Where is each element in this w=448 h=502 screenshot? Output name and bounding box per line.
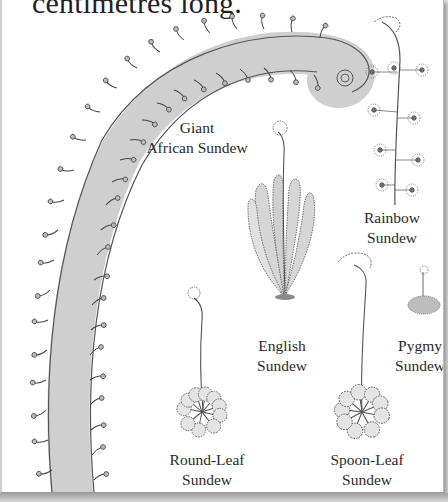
english-sundew-drawing [248,121,315,300]
book-page: centimetres long. [0,0,444,493]
spoon-leaf-sundew-drawing [333,253,392,441]
label-english-sundew: English Sundew [247,336,317,376]
label-rainbow-sundew: Rainbow Sundew [347,208,437,248]
label-round-leaf-sundew: Round-Leaf Sundew [157,450,257,490]
rainbow-sundew-drawing [366,17,428,205]
label-pygmy-sundew: Pygmy Sundew [385,336,444,376]
pygmy-sundew-drawing [408,266,440,314]
round-leaf-sundew-drawing [175,287,229,439]
page-shadow [0,493,448,502]
label-giant-african-sundew: Giant African Sundew [142,118,252,158]
giant-african-sundew-drawing [29,12,369,492]
label-spoon-leaf-sundew: Spoon-Leaf Sundew [317,450,417,490]
